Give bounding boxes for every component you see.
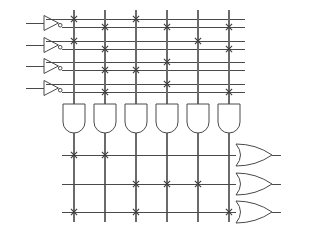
input-stub-group bbox=[26, 23, 44, 88]
product-term-column-group bbox=[74, 10, 229, 222]
and-gate-p4 bbox=[156, 104, 178, 133]
pla-canvas bbox=[0, 0, 316, 239]
or-gate-o1 bbox=[236, 144, 272, 166]
or-gate-group bbox=[236, 144, 281, 223]
or-plane-row-group bbox=[62, 155, 236, 212]
inverter-bubble-i2 bbox=[58, 45, 62, 49]
and-gate-p2 bbox=[94, 104, 116, 133]
inverter-i3 bbox=[44, 59, 58, 74]
pla-diagram bbox=[0, 0, 316, 239]
inverter-bubble-i1 bbox=[58, 23, 62, 27]
inverter-i4 bbox=[44, 81, 58, 96]
and-gate-group bbox=[63, 104, 240, 133]
and-gate-p1 bbox=[63, 104, 85, 133]
and-gate-p6 bbox=[218, 104, 240, 133]
and-gate-p3 bbox=[125, 104, 147, 133]
inverter-bubble-i4 bbox=[58, 88, 62, 92]
or-gate-o3 bbox=[236, 201, 272, 223]
inverter-i1 bbox=[44, 16, 58, 31]
inverter-i2 bbox=[44, 38, 58, 53]
or-gate-o2 bbox=[236, 173, 272, 195]
inverter-bubble-i3 bbox=[58, 66, 62, 70]
and-gate-p5 bbox=[187, 104, 209, 133]
and-plane-connection-group bbox=[71, 16, 232, 95]
and-plane-row-group bbox=[46, 19, 245, 92]
